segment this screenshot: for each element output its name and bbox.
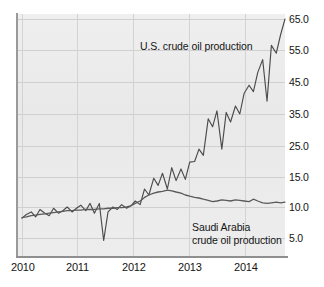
x-tick-label-2012: 2012 bbox=[122, 262, 146, 273]
x-tick-label-2010: 2010 bbox=[11, 262, 35, 273]
annotation-saudi-line2: crude oil production bbox=[192, 234, 282, 247]
y-tick-label-15: 15.0 bbox=[289, 172, 309, 182]
y-tick-label-35: 35.0 bbox=[289, 109, 309, 119]
x-tick-label-2011: 2011 bbox=[66, 262, 89, 273]
chart-figure: 65.0 55.0 45.0 35.0 25.0 15.0 10.0 5.0 2… bbox=[0, 0, 324, 287]
y-tick-label-25: 25.0 bbox=[289, 141, 309, 151]
annotation-us-series: U.S. crude oil production bbox=[140, 40, 252, 53]
y-tick-label-10: 10.0 bbox=[289, 202, 309, 212]
y-tick-label-55: 55.0 bbox=[289, 45, 309, 55]
y-tick-label-5: 5.0 bbox=[289, 233, 303, 243]
y-tick-label-65: 65.0 bbox=[289, 14, 309, 24]
annotation-saudi-line1: Saudi Arabia bbox=[192, 221, 282, 234]
x-tick-label-2014: 2014 bbox=[234, 262, 258, 273]
x-tick-label-2013: 2013 bbox=[178, 262, 202, 273]
y-tick-label-45: 45.0 bbox=[289, 77, 309, 87]
annotation-saudi-series: Saudi Arabia crude oil production bbox=[192, 221, 282, 246]
line-saudi-crude-oil-production bbox=[22, 190, 285, 217]
